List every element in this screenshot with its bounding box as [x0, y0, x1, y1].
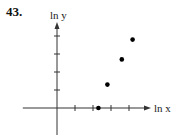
data-point — [120, 57, 125, 62]
scatter-plot: ln x ln y — [0, 0, 178, 137]
x-axis-arrow-icon — [144, 106, 151, 111]
data-point — [105, 82, 110, 87]
data-point — [96, 106, 101, 111]
data-point — [130, 37, 135, 42]
y-axis-label: ln y — [50, 9, 67, 21]
y-axis-arrow-icon — [55, 22, 60, 29]
axis-ticks — [54, 36, 129, 111]
x-axis-label: ln x — [154, 102, 171, 114]
data-points — [96, 37, 135, 110]
